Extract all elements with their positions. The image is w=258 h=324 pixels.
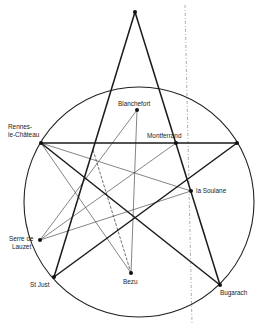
point-st-just — [52, 275, 56, 279]
dashed-line — [93, 150, 131, 273]
label-bugarach: Bugarach — [220, 289, 248, 297]
pentagram-edge — [135, 12, 220, 285]
point-serre — [38, 238, 42, 242]
thin-line — [41, 143, 191, 191]
label-bezu: Bezu — [123, 278, 138, 285]
pentagram-edge — [41, 143, 220, 285]
point-la-soulane — [189, 189, 193, 193]
point-apex — [133, 10, 137, 14]
label-la-soulane: la Soulane — [196, 187, 227, 194]
label-serre-2: Lauzet — [12, 243, 31, 250]
dashed-alignment-lines — [93, 150, 131, 273]
label-rennes-1: Rennes- — [8, 123, 32, 130]
point-blanchefort — [135, 108, 139, 112]
thin-line — [40, 110, 137, 240]
label-montferrand: Montferrand — [147, 132, 182, 139]
point-right — [235, 141, 239, 145]
thin-line — [131, 110, 137, 273]
point-rennes — [39, 141, 43, 145]
pentagram-lines — [41, 12, 237, 285]
label-blanchefort: Blanchefort — [118, 100, 151, 107]
pentagram-edge — [54, 143, 237, 277]
label-serre-1: Serre de — [9, 235, 34, 242]
point-bezu — [129, 271, 133, 275]
pentagram-diagram: Rennes- le-Château Blanchefort Montferra… — [0, 0, 258, 324]
pentagram-edge — [54, 12, 135, 277]
point-montferrand — [174, 141, 178, 145]
location-points — [38, 10, 239, 287]
label-rennes-2: le-Château — [8, 131, 40, 138]
meridian-line — [185, 5, 192, 324]
meridian-dashed-line — [185, 5, 192, 324]
point-bugarach — [218, 283, 222, 287]
label-st-just: St Just — [30, 281, 50, 288]
